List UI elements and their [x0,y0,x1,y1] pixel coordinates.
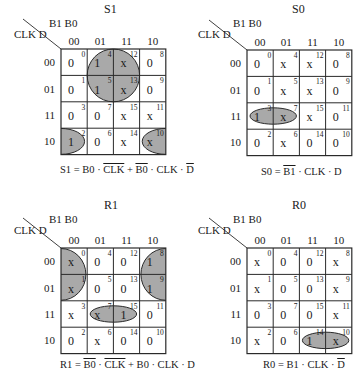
col-header: 00 [69,234,81,246]
header-diagonal [209,218,247,248]
minterm-index: 9 [160,76,164,85]
row-header: 11 [230,308,241,320]
cell-value: x [121,56,127,70]
row-header: 01 [44,282,55,294]
cell-value: 1 [121,308,127,322]
col-header: 00 [69,35,81,47]
equation-term: · [95,164,104,175]
minterm-index: 2 [81,129,85,138]
minterm-index: 15 [130,103,138,112]
cell-value: x [280,136,286,150]
cell-value: x [333,334,339,348]
minterm-index: 13 [316,77,324,86]
cell-value: x [280,84,286,98]
complemented-term: B0 [135,164,147,175]
minterm-index: 4 [294,249,298,258]
minterm-index: 15 [130,302,138,311]
cell-value: 0 [147,83,153,97]
cell-value: 0 [280,282,286,296]
row-header: 00 [44,255,56,267]
cell-value: 0 [280,255,286,269]
minterm-index: 10 [156,328,164,337]
cell-value: 1 [147,282,153,296]
complemented-term: D [337,359,345,370]
cell-value: 0 [147,56,153,70]
cell-value: x [121,83,127,97]
cell-value: x [333,308,339,322]
cell-value: x [147,135,153,149]
minterm-index: 10 [342,328,350,337]
minterm-index: 7 [108,103,112,112]
equation: R0 = B1 · CLK · D [263,359,345,370]
minterm-index: 5 [294,77,298,86]
col-header: 11 [307,234,318,246]
equation-lhs: S0 = [261,166,283,177]
cell-value: x [121,109,127,123]
cell-value: 0 [280,308,286,322]
cell-value: 0 [147,334,153,348]
minterm-index: 7 [108,302,112,311]
minterm-index: 7 [294,104,298,113]
cell-value: 0 [121,255,127,269]
cell-value: 0 [254,136,260,150]
minterm-index: 15 [316,302,324,311]
col-header: 10 [147,234,159,246]
equation-term: B0 [82,164,94,175]
minterm-index: 6 [294,328,298,337]
col-header: 10 [333,36,345,48]
cell-value: x [307,110,313,124]
minterm-index: 12 [130,249,138,258]
row-header: 01 [230,84,241,96]
equation-lhs: R0 = [263,359,286,370]
minterm-index: 0 [81,249,85,258]
cell-value: 0 [94,109,100,123]
cell-value: 0 [333,57,339,71]
equation: S1 = B0 · CLK + B0 · CLK · D [60,164,194,175]
minterm-index: 3 [81,103,85,112]
cell-value: 0 [333,136,339,150]
cell-value: 1 [68,135,74,149]
minterm-index: 0 [81,50,85,59]
row-header: 10 [44,135,56,147]
equation-term: B1 · CLK · [286,359,337,370]
kmap-s0: S0 B1 B0 CLK D 000111100001111000x4x1208… [180,0,360,196]
kmap-r0: R0 B1 B0 CLK D 0001111000011110x004012x8… [180,196,360,392]
cell-value: 0 [307,255,313,269]
minterm-index: 2 [267,130,271,139]
minterm-index: 0 [267,51,271,60]
minterm-index: 14 [316,130,324,139]
kmap-s1: S1 B1 B0 CLK D 00011110000111100014x1208… [0,0,180,196]
col-header: 01 [95,234,106,246]
row-header: 10 [230,334,242,346]
cell-value: 1 [94,83,100,97]
cell-value: x [254,255,260,269]
minterm-index: 4 [108,50,112,59]
cell-value: 0 [307,308,313,322]
equation-term: + [124,164,135,175]
complemented-term: B0 [83,359,95,370]
minterm-index: 14 [130,328,138,337]
minterm-index: 12 [316,249,324,258]
cell-value: x [254,282,260,296]
cell-value: x [68,282,74,296]
cell-value: 0 [254,84,260,98]
minterm-index: 3 [267,302,271,311]
col-header: 00 [255,234,267,246]
cell-value: 0 [94,135,100,149]
cell-value: x [333,282,339,296]
cell-value: x [68,308,74,322]
row-header: 00 [44,56,56,68]
minterm-index: 13 [316,275,324,284]
cell-value: 1 [254,110,260,124]
cell-value: x [121,135,127,149]
minterm-index: 4 [108,249,112,258]
minterm-index: 12 [130,50,138,59]
row-header: 10 [44,334,56,346]
cell-value: 1 [94,56,100,70]
minterm-index: 8 [346,51,350,60]
complemented-term: B1 [283,166,295,177]
cell-value: x [94,308,100,322]
minterm-index: 13 [130,275,138,284]
col-header: 11 [121,35,132,47]
minterm-index: 5 [108,275,112,284]
